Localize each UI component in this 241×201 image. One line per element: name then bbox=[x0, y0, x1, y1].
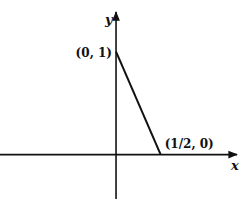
diagram: x y (0, 1) (1/2, 0) bbox=[0, 0, 241, 201]
point-label-half-0: (1/2, 0) bbox=[165, 137, 214, 151]
y-axis-label: y bbox=[104, 12, 114, 27]
x-axis-label: x bbox=[230, 158, 239, 173]
point-label-0-1: (0, 1) bbox=[76, 46, 112, 60]
line-segment bbox=[116, 52, 161, 155]
